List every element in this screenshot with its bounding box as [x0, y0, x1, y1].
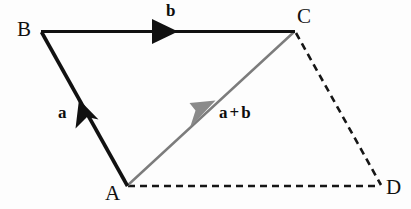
vertex-label-c: C: [297, 6, 311, 27]
vector-label-sum-operator: +: [228, 103, 242, 122]
vector-a-plus-b-shaft: [128, 32, 294, 185]
vertex-label-d: D: [386, 177, 401, 198]
vector-a-plus-b-arrowhead: [190, 101, 216, 128]
vector-a-arrowhead: [76, 100, 99, 129]
vector-label-a: a: [58, 104, 67, 121]
vector-label-a-plus-b: a+b: [219, 104, 251, 121]
vector-label-sum-right: b: [241, 103, 250, 122]
vector-label-b: b: [166, 2, 175, 19]
vector-diagram: B C A D a b a+b: [0, 0, 411, 209]
vertex-label-a: A: [105, 183, 120, 204]
vertex-label-b: B: [17, 19, 31, 40]
vector-b-arrowhead: [152, 19, 178, 44]
vector-label-sum-left: a: [219, 103, 228, 122]
edge-c-to-d: [296, 33, 381, 185]
